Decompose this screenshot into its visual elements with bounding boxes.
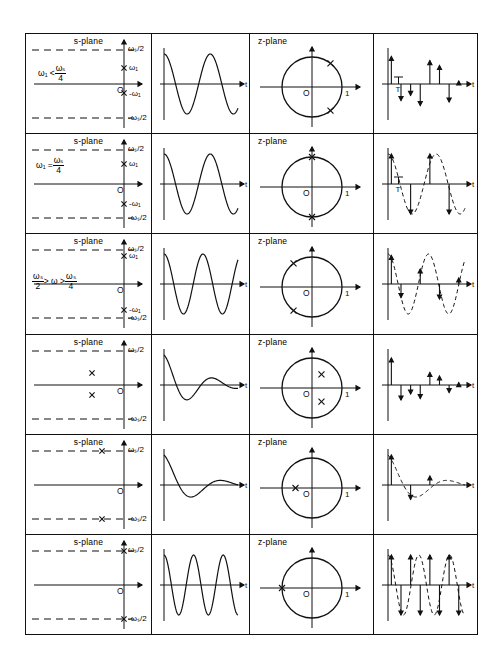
table-row: Os-planeωₛ/2-ωₛ/2tO1z-planet — [26, 335, 477, 435]
svg-text:t: t — [245, 280, 248, 289]
svg-text:t: t — [472, 481, 475, 490]
pole-mapping-table: Os-planeωₛ/2-ωₛ/2ω₁-ω₁ω₁ < ωₛ4tO1z-plane… — [25, 33, 478, 635]
svg-text:O: O — [303, 589, 310, 599]
svg-text:1: 1 — [345, 289, 350, 298]
s-label-omega-s-half-neg: -ωₛ/2 — [128, 514, 147, 523]
s-label-omega-s-half-pos: ωₛ/2 — [128, 44, 144, 53]
z-plane-cell-row-6: O1z-plane — [250, 535, 374, 634]
s-label-omega1-neg: -ω₁ — [129, 305, 141, 314]
svg-text:T: T — [396, 185, 401, 194]
waveform-cell-row-6: t — [152, 535, 250, 634]
svg-text:O: O — [117, 285, 124, 295]
samples-cell-row-3: t — [374, 234, 477, 333]
waveform-cell-row-4: t — [152, 335, 250, 434]
s-plane-cell-row-6: Os-planeωₛ/2-ωₛ/2 — [26, 535, 152, 634]
svg-text:t: t — [472, 280, 475, 289]
condition-row-1: ω₁ < ωₛ4 — [38, 64, 66, 82]
s-label-omega-s-half-pos: ωₛ/2 — [128, 545, 144, 554]
samples-cell-row-6: t — [374, 535, 477, 634]
z-plane-cell-row-3: O1z-plane — [250, 234, 374, 333]
waveform-cell-row-5: t — [152, 435, 250, 534]
svg-text:1: 1 — [345, 590, 350, 599]
svg-text:O: O — [303, 88, 310, 98]
svg-text:t: t — [472, 381, 475, 390]
waveform-cell-row-3: t — [152, 234, 250, 333]
svg-text:t: t — [472, 80, 475, 89]
s-label-omega1-pos: ω₁ — [129, 251, 138, 260]
table-row: Os-planeωₛ/2-ωₛ/2ω₁-ω₁ω₁ = ωₛ4tO1z-plane… — [26, 134, 477, 234]
s-label-omega1-neg: -ω₁ — [129, 89, 141, 98]
svg-text:O: O — [303, 188, 310, 198]
svg-text:O: O — [303, 389, 310, 399]
z-plane-cell-row-5: O1z-plane — [250, 435, 374, 534]
s-label-omega-s-half-neg: -ωₛ/2 — [128, 113, 147, 122]
s-label-omega1-pos: ω₁ — [129, 159, 138, 168]
svg-text:t: t — [245, 80, 248, 89]
svg-text:t: t — [245, 481, 248, 490]
svg-text:t: t — [472, 180, 475, 189]
figure-page: Os-planeωₛ/2-ωₛ/2ω₁-ω₁ω₁ < ωₛ4tO1z-plane… — [0, 0, 500, 670]
svg-text:O: O — [303, 288, 310, 298]
svg-text:1: 1 — [345, 390, 350, 399]
svg-text:O: O — [117, 185, 124, 195]
condition-row-2: ω₁ = ωₛ4 — [36, 156, 64, 174]
s-label-omega-s-half-neg: -ωₛ/2 — [128, 213, 147, 222]
s-plane-cell-row-3: Os-planeωₛ/2-ωₛ/2ω₁-ω₁ωₛ2 > ω > ωₛ4 — [26, 234, 152, 333]
table-row: Os-planeωₛ/2-ωₛ/2tO1z-planet — [26, 535, 477, 634]
svg-text:t: t — [245, 180, 248, 189]
svg-text:t: t — [245, 581, 248, 590]
samples-cell-row-4: t — [374, 335, 477, 434]
s-label-omega-s-half-pos: ωₛ/2 — [128, 144, 144, 153]
svg-text:t: t — [245, 381, 248, 390]
z-plane-cell-row-4: O1z-plane — [250, 335, 374, 434]
waveform-cell-row-1: t — [152, 34, 250, 133]
s-plane-cell-row-2: Os-planeωₛ/2-ωₛ/2ω₁-ω₁ω₁ = ωₛ4 — [26, 134, 152, 233]
s-label-omega-s-half-pos: ωₛ/2 — [128, 345, 144, 354]
s-plane-cell-row-1: Os-planeωₛ/2-ωₛ/2ω₁-ω₁ω₁ < ωₛ4 — [26, 34, 152, 133]
s-label-omega-s-half-pos: ωₛ/2 — [128, 445, 144, 454]
svg-text:O: O — [303, 489, 310, 499]
s-label-omega1-pos: ω₁ — [129, 63, 138, 72]
s-label-omega1-neg: -ω₁ — [129, 199, 141, 208]
s-label-omega-s-half-neg: -ωₛ/2 — [128, 614, 147, 623]
svg-text:1: 1 — [345, 490, 350, 499]
s-plane-cell-row-4: Os-planeωₛ/2-ωₛ/2 — [26, 335, 152, 434]
samples-cell-row-5: t — [374, 435, 477, 534]
svg-text:O: O — [117, 586, 124, 596]
table-row: Os-planeωₛ/2-ωₛ/2tO1z-planet — [26, 435, 477, 535]
samples-cell-row-2: tT — [374, 134, 477, 233]
z-plane-cell-row-1: O1z-plane — [250, 34, 374, 133]
svg-text:1: 1 — [345, 189, 350, 198]
svg-text:1: 1 — [345, 89, 350, 98]
samples-cell-row-1: tT — [374, 34, 477, 133]
s-label-omega-s-half-neg: -ωₛ/2 — [128, 414, 147, 423]
condition-row-3: ωₛ2 > ω > ωₛ4 — [32, 272, 77, 290]
table-row: Os-planeωₛ/2-ωₛ/2ω₁-ω₁ω₁ < ωₛ4tO1z-plane… — [26, 34, 477, 134]
svg-text:O: O — [117, 486, 124, 496]
z-plane-cell-row-2: O1z-plane — [250, 134, 374, 233]
s-plane-cell-row-5: Os-planeωₛ/2-ωₛ/2 — [26, 435, 152, 534]
svg-text:T: T — [396, 85, 401, 94]
waveform-cell-row-2: t — [152, 134, 250, 233]
svg-text:t: t — [472, 581, 475, 590]
s-label-omega-s-half-neg: -ωₛ/2 — [128, 313, 147, 322]
svg-text:O: O — [117, 386, 124, 396]
table-row: Os-planeωₛ/2-ωₛ/2ω₁-ω₁ωₛ2 > ω > ωₛ4tO1z-… — [26, 234, 477, 334]
